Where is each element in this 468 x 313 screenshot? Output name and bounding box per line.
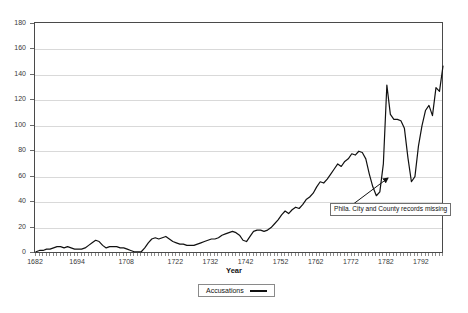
x-tick-mark — [207, 253, 208, 256]
x-tick-mark — [193, 253, 194, 256]
x-tick-mark — [344, 253, 345, 256]
x-tick-mark — [295, 253, 296, 256]
y-tick-label: 140 — [0, 70, 26, 77]
x-tick-mark — [333, 253, 334, 256]
x-tick-mark — [196, 253, 197, 256]
x-tick-label: 1732 — [203, 258, 219, 265]
x-tick-mark — [130, 253, 131, 256]
x-tick-mark — [225, 253, 226, 256]
x-tick-mark — [154, 253, 155, 256]
x-tick-label: 1752 — [273, 258, 289, 265]
x-axis-title: Year — [0, 266, 468, 275]
x-tick-mark — [389, 253, 390, 256]
x-tick-mark — [112, 253, 113, 256]
x-tick-mark — [84, 253, 85, 256]
x-tick-mark — [267, 253, 268, 256]
y-tick-label: 40 — [0, 197, 26, 204]
x-tick-mark — [428, 253, 429, 256]
x-tick-mark — [326, 253, 327, 256]
x-tick-mark — [309, 253, 310, 256]
x-tick-mark — [105, 253, 106, 256]
x-tick-mark — [133, 253, 134, 256]
x-tick-mark — [425, 253, 426, 256]
x-tick-label: 1742 — [238, 258, 254, 265]
x-tick-label: 1694 — [69, 258, 85, 265]
x-tick-mark — [246, 253, 247, 256]
x-tick-label: 1772 — [343, 258, 359, 265]
x-tick-mark — [375, 253, 376, 256]
x-tick-mark — [302, 253, 303, 256]
x-tick-mark — [284, 253, 285, 256]
x-tick-mark — [281, 253, 282, 256]
x-tick-mark — [140, 253, 141, 256]
x-tick-mark — [393, 253, 394, 256]
x-tick-mark — [161, 253, 162, 256]
x-tick-mark — [316, 253, 317, 256]
x-tick-mark — [319, 253, 320, 256]
x-tick-mark — [274, 253, 275, 256]
x-tick-mark — [151, 253, 152, 256]
x-tick-mark — [260, 253, 261, 256]
x-tick-mark — [98, 253, 99, 256]
x-tick-mark — [63, 253, 64, 256]
x-tick-mark — [242, 253, 243, 256]
x-tick-mark — [49, 253, 50, 256]
x-tick-mark — [70, 253, 71, 256]
x-tick-mark — [35, 253, 36, 256]
y-tick-label: 60 — [0, 172, 26, 179]
x-tick-mark — [410, 253, 411, 256]
x-tick-mark — [165, 253, 166, 256]
y-tick-label: 120 — [0, 95, 26, 102]
x-tick-mark — [200, 253, 201, 256]
x-tick-mark — [396, 253, 397, 256]
x-tick-mark — [116, 253, 117, 256]
x-tick-mark — [60, 253, 61, 256]
legend-label-accusations: Accusations — [206, 287, 244, 294]
x-tick-mark — [56, 253, 57, 256]
y-tick-label: 80 — [0, 146, 26, 153]
x-tick-mark — [137, 253, 138, 256]
x-tick-mark — [46, 253, 47, 256]
x-tick-mark — [158, 253, 159, 256]
x-tick-mark — [330, 253, 331, 256]
chart-root: 020406080100120140160180 168216941708172… — [0, 0, 468, 313]
x-tick-mark — [256, 253, 257, 256]
x-tick-mark — [249, 253, 250, 256]
x-tick-label: 1722 — [168, 258, 184, 265]
x-tick-mark — [439, 253, 440, 256]
x-tick-label: 1682 — [27, 258, 43, 265]
x-tick-mark — [228, 253, 229, 256]
x-tick-mark — [88, 253, 89, 256]
x-tick-mark — [351, 253, 352, 256]
x-tick-mark — [323, 253, 324, 256]
annotation-records-missing: Phila. City and County records missing — [330, 203, 451, 216]
x-tick-mark — [168, 253, 169, 256]
x-tick-mark — [298, 253, 299, 256]
x-tick-mark — [144, 253, 145, 256]
x-tick-mark — [368, 253, 369, 256]
x-tick-mark — [221, 253, 222, 256]
x-tick-mark — [119, 253, 120, 256]
annotation-text: Phila. City and County records missing — [334, 205, 447, 212]
x-tick-mark — [74, 253, 75, 256]
x-tick-mark — [382, 253, 383, 256]
x-tick-mark — [277, 253, 278, 256]
x-tick-mark — [53, 253, 54, 256]
x-tick-mark — [91, 253, 92, 256]
series-accusations — [35, 23, 444, 254]
x-tick-mark — [81, 253, 82, 256]
legend-swatch-accusations — [250, 290, 267, 292]
x-tick-label: 1762 — [308, 258, 324, 265]
y-tick-label: 100 — [0, 121, 26, 128]
x-tick-mark — [288, 253, 289, 256]
x-tick-mark — [172, 253, 173, 256]
x-tick-mark — [210, 253, 211, 256]
x-tick-mark — [126, 253, 127, 256]
x-tick-mark — [42, 253, 43, 256]
x-tick-mark — [253, 253, 254, 256]
x-tick-label: 1708 — [118, 258, 134, 265]
x-tick-mark — [354, 253, 355, 256]
x-tick-label: 1782 — [378, 258, 394, 265]
plot-area — [34, 22, 443, 253]
x-tick-mark — [147, 253, 148, 256]
